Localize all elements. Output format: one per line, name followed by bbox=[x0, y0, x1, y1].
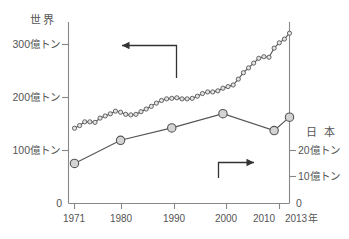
data-point bbox=[241, 71, 245, 75]
left-tick-label-300: 300億トン bbox=[12, 38, 60, 50]
x-tick-label-2000: 2000 bbox=[215, 213, 238, 224]
right-axis-title: 日 本 bbox=[306, 125, 337, 138]
data-point bbox=[262, 55, 266, 59]
data-point bbox=[170, 96, 174, 100]
data-point bbox=[108, 112, 112, 116]
data-point bbox=[226, 84, 230, 88]
x-axis-group: 1971 1980 1990 2000 2010 2013 年 bbox=[63, 204, 318, 225]
left-axis-title: 世界 bbox=[30, 14, 56, 26]
data-point bbox=[282, 37, 286, 41]
data-point bbox=[231, 83, 235, 87]
series-japan bbox=[70, 109, 293, 167]
x-axis-unit-label: 年 bbox=[308, 212, 318, 224]
right-tick-label-10: 10億トン bbox=[298, 170, 340, 182]
data-point bbox=[124, 112, 128, 116]
data-point bbox=[185, 97, 189, 101]
data-point bbox=[83, 120, 87, 124]
data-point bbox=[277, 41, 281, 45]
data-point bbox=[93, 120, 97, 124]
data-point bbox=[103, 114, 107, 118]
x-tick-marks bbox=[75, 204, 280, 210]
data-point bbox=[267, 55, 271, 59]
x-tick-label-2010: 2010 bbox=[253, 213, 276, 224]
japan-axis-pointer bbox=[219, 159, 255, 178]
left-tick-label-200: 200億トン bbox=[12, 91, 60, 103]
data-point bbox=[113, 109, 117, 113]
emissions-line-chart: 世界 300億トン 200億トン 100億トン 0 日 本 20億トン 10億ト… bbox=[0, 0, 349, 239]
data-point bbox=[195, 94, 199, 98]
chart-container: 世界 300億トン 200億トン 100億トン 0 日 本 20億トン 10億ト… bbox=[0, 0, 349, 239]
data-point bbox=[70, 159, 78, 167]
data-point bbox=[257, 56, 261, 60]
data-point bbox=[168, 124, 176, 132]
data-point bbox=[211, 90, 215, 94]
data-point bbox=[149, 104, 153, 108]
data-point bbox=[118, 110, 122, 114]
data-point bbox=[200, 91, 204, 95]
data-point bbox=[180, 97, 184, 101]
data-point bbox=[287, 31, 291, 35]
series-world bbox=[72, 31, 291, 130]
data-point bbox=[272, 46, 276, 50]
data-point bbox=[246, 66, 250, 70]
data-point bbox=[175, 96, 179, 100]
data-point bbox=[270, 126, 278, 134]
data-point bbox=[159, 98, 163, 102]
data-point bbox=[206, 90, 210, 94]
data-point bbox=[216, 89, 220, 93]
x-tick-label-1980: 1980 bbox=[110, 213, 133, 224]
x-tick-label-1990: 1990 bbox=[163, 213, 186, 224]
left-tick-label-0: 0 bbox=[56, 197, 62, 209]
data-point bbox=[88, 120, 92, 124]
data-point bbox=[252, 61, 256, 65]
x-tick-label-2013: 2013 bbox=[285, 213, 308, 224]
world-axis-pointer bbox=[122, 42, 177, 78]
right-tick-label-20: 20億トン bbox=[298, 144, 340, 156]
data-point bbox=[219, 109, 227, 117]
data-point bbox=[144, 107, 148, 111]
data-point bbox=[285, 113, 293, 121]
left-axis-group: 世界 300億トン 200億トン 100億トン 0 bbox=[12, 14, 68, 209]
right-axis-group: 日 本 20億トン 10億トン 0 bbox=[290, 22, 340, 209]
data-point bbox=[116, 136, 124, 144]
data-point bbox=[221, 86, 225, 90]
left-tick-label-100: 100億トン bbox=[12, 144, 60, 156]
data-point bbox=[134, 112, 138, 116]
right-tick-label-0: 0 bbox=[296, 197, 302, 209]
data-point bbox=[129, 113, 133, 117]
data-point bbox=[165, 97, 169, 101]
data-point bbox=[78, 123, 82, 127]
data-point bbox=[72, 126, 76, 130]
x-tick-label-1971: 1971 bbox=[63, 213, 86, 224]
data-point bbox=[139, 110, 143, 114]
data-point bbox=[190, 96, 194, 100]
data-point bbox=[236, 77, 240, 81]
data-point bbox=[98, 116, 102, 120]
series-line-right bbox=[75, 114, 290, 164]
data-point bbox=[154, 101, 158, 105]
